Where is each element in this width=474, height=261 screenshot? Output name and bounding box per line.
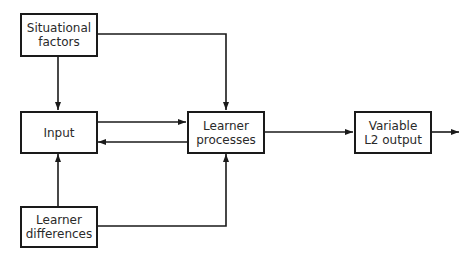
arrow-situational-to-processes <box>97 34 226 110</box>
node-label: Learner differences <box>26 213 93 241</box>
node-label: Learner processes <box>196 119 256 147</box>
node-learner-differences: Learner differences <box>20 206 98 248</box>
node-label: Situational factors <box>27 21 91 49</box>
node-input: Input <box>20 111 98 154</box>
arrow-differences-to-processes <box>97 154 226 226</box>
node-label: Variable L2 output <box>364 119 422 147</box>
node-situational-factors: Situational factors <box>20 13 98 57</box>
node-variable-l2-output: Variable L2 output <box>354 111 432 154</box>
node-label: Input <box>43 126 74 140</box>
node-learner-processes: Learner processes <box>187 111 265 154</box>
